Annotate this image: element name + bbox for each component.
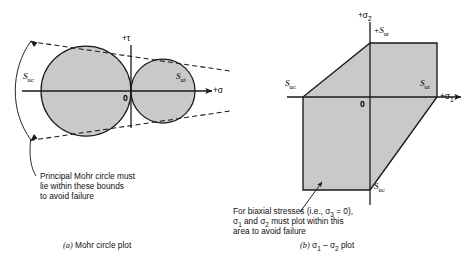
panel-b-suc-left-label: Suc [285,78,296,88]
panel-b-sut-top-label: +Sut [374,25,389,35]
panel-b-origin-label: 0 [360,99,365,109]
panel-b-caption: (b) σ1 – σ2 plot [300,240,354,250]
panel-b-note-line-1: For biaxial stresses (i.e., σ3 = 0), [233,206,353,216]
panel-b-note-line-2: σ1 and σ2 must plot within this [233,216,344,226]
panel-b-sigma2-axis-label: +σ2 [358,10,372,20]
bounds-arrow-top [31,41,38,48]
panel-a-suc-label: Suc [23,71,34,81]
panel-a-note-line-3: to avoid failure [40,191,94,201]
panel-a-sigma-axis-label: +σ [213,85,223,95]
panel-a-graphics [15,41,230,177]
panel-b-sut-right-label: Sut [420,78,430,88]
panel-a-caption: (a) Mohr circle plot [63,240,131,250]
panel-b-note-line-3: area to avoid failure [233,226,306,236]
panel-a-tau-axis-label: +τ [122,33,130,43]
panel-b-sigma1-axis-label: +σ1 [440,91,454,101]
figure-container: Suc Sut +τ +σ 0 Principal Mohr circle mu… [0,0,476,267]
panel-a-origin-label: 0 [123,93,128,103]
panel-a-note-line-2: lie within these bounds [40,181,124,191]
panel-a-sut-label: Sut [176,71,186,81]
panel-a-note-line-1: Principal Mohr circle must [40,171,135,181]
note-leader-line [30,141,36,176]
panel-b-suc-bottom-label: Suc [374,181,385,191]
